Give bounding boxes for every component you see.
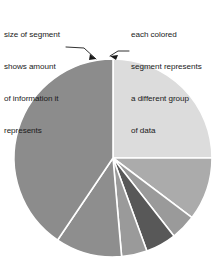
segment-size-annotation: size of segment shows amount of informat… [4,9,60,157]
segment-color-annotation-line-3: a different group [131,94,202,105]
segment-size-annotation-line-3: of information it [4,94,60,105]
segment-size-annotation-line-2: shows amount [4,62,60,73]
segment-size-annotation-line-1: size of segment [4,30,60,41]
segment-color-annotation-line-4: of data [131,126,202,137]
segment-color-annotation: each colored segment represents a differ… [131,9,202,157]
segment-color-annotation-line-1: each colored [131,30,202,41]
segment-color-annotation-line-2: segment represents [131,62,202,73]
segment-size-annotation-line-4: represents [4,126,60,137]
pie-chart-figure: size of segment shows amount of informat… [0,0,220,267]
